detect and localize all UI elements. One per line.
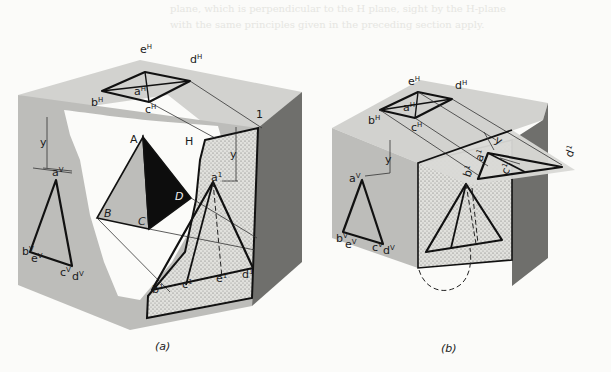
svg-text:y: y bbox=[230, 148, 237, 161]
projection-diagram: plane, which is perpendicular to the H p… bbox=[0, 0, 611, 372]
fig-b-caption: (b) bbox=[441, 342, 457, 355]
figure-a: y y eH dH bH aH cH H 1 A B C D aV bV eV … bbox=[18, 43, 302, 353]
svg-text:with the same principles given: with the same principles given in the pr… bbox=[170, 19, 484, 30]
fig-a-caption: (a) bbox=[155, 340, 170, 353]
svg-text:H: H bbox=[185, 135, 193, 148]
svg-text:C: C bbox=[138, 215, 146, 228]
svg-text:plane, which is perpendicular: plane, which is perpendicular to the H p… bbox=[170, 3, 506, 14]
figure-b: y y eH dH bH aH cH aV bV eV cV dV b1 a1 … bbox=[332, 75, 579, 355]
svg-text:d1: d1 bbox=[563, 144, 579, 159]
fig-b-side-face bbox=[512, 103, 548, 286]
svg-text:D: D bbox=[175, 190, 183, 203]
svg-text:y: y bbox=[40, 136, 47, 149]
svg-text:dH: dH bbox=[190, 53, 202, 66]
svg-text:1: 1 bbox=[256, 108, 263, 121]
background-text: plane, which is perpendicular to the H p… bbox=[170, 3, 506, 30]
svg-text:eH: eH bbox=[140, 43, 152, 56]
svg-text:B: B bbox=[104, 207, 112, 220]
svg-text:eV: eV bbox=[345, 238, 357, 251]
svg-text:y: y bbox=[385, 153, 392, 166]
svg-text:A: A bbox=[130, 133, 138, 146]
